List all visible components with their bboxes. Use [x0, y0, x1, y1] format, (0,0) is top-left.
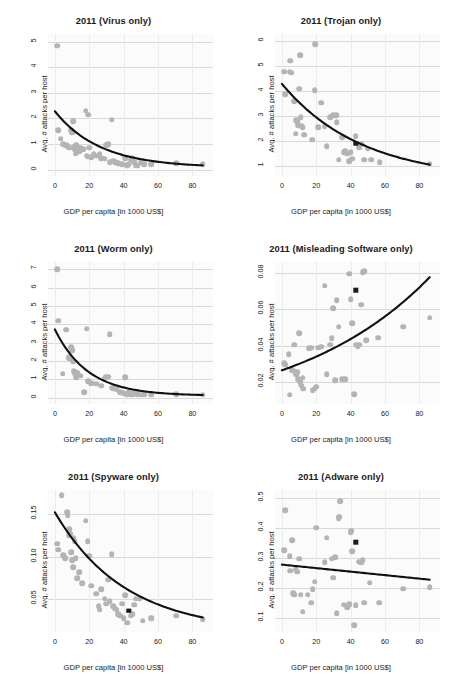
- fit-curve: [275, 34, 440, 176]
- y-tick-label: 0.3: [256, 545, 265, 567]
- panel-title: 2011 (Adware only): [227, 472, 455, 482]
- x-axis-label: GDP per capita [in 1000 US$]: [0, 435, 227, 444]
- highlight-marker: [353, 141, 358, 146]
- scatter-plot-grid: 2011 (Virus only)Avg. # attacks per host…: [0, 0, 455, 684]
- x-tick-label: 20: [85, 409, 93, 418]
- y-tick-label: 0: [29, 157, 38, 179]
- x-tick-label: 80: [188, 181, 196, 190]
- panel-title: 2011 (Trojan only): [227, 16, 455, 26]
- x-tick-label: 80: [188, 637, 196, 646]
- y-tick-label: 0.5: [256, 485, 265, 507]
- panel-title: 2011 (Virus only): [0, 16, 227, 26]
- x-axis-label: GDP per capita [in 1000 US$]: [227, 207, 455, 216]
- fit-curve: [48, 34, 213, 176]
- plot-area: 012345020406080: [48, 34, 213, 176]
- chart-panel-1: 2011 (Virus only)Avg. # attacks per host…: [0, 0, 227, 228]
- x-tick-label: 60: [381, 637, 389, 646]
- highlight-marker: [353, 288, 358, 293]
- y-tick-label: 0.10: [29, 544, 38, 566]
- x-axis-label: GDP per capita [in 1000 US$]: [227, 663, 455, 672]
- y-tick-label: 3: [256, 104, 265, 126]
- panel-title: 2011 (Worm only): [0, 244, 227, 254]
- x-tick-label: 0: [280, 409, 284, 418]
- fit-curve: [275, 262, 440, 404]
- y-tick-label: 0.1: [256, 606, 265, 628]
- y-tick-label: 0.05: [29, 587, 38, 609]
- y-tick-label: 2: [256, 129, 265, 151]
- plot-area: 0.050.100.15020406080: [48, 490, 213, 632]
- chart-panel-2: 2011 (Trojan only)Avg. # attacks per hos…: [227, 0, 455, 228]
- chart-panel-4: 2011 (Misleading Software only)Avg. # at…: [227, 228, 455, 456]
- y-tick-label: 5: [29, 29, 38, 51]
- x-tick-label: 60: [381, 409, 389, 418]
- x-tick-label: 0: [53, 637, 57, 646]
- y-tick-label: 0.4: [256, 515, 265, 537]
- x-tick-label: 60: [381, 181, 389, 190]
- y-tick-label: 6: [256, 29, 265, 51]
- fit-curve: [275, 490, 440, 632]
- x-tick-label: 60: [154, 637, 162, 646]
- plot-area: 0.020.040.060.08020406080: [275, 262, 440, 404]
- y-tick-label: 0.08: [256, 260, 265, 282]
- x-tick-label: 40: [347, 637, 355, 646]
- x-tick-label: 40: [120, 409, 128, 418]
- y-tick-label: 1: [29, 132, 38, 154]
- x-tick-label: 60: [154, 181, 162, 190]
- x-tick-label: 60: [154, 409, 162, 418]
- x-axis-label: GDP per capita [in 1000 US$]: [0, 207, 227, 216]
- chart-panel-5: 2011 (Spyware only)Avg. # attacks per ho…: [0, 456, 227, 684]
- y-tick-label: 7: [29, 257, 38, 279]
- x-tick-label: 40: [120, 637, 128, 646]
- x-tick-label: 20: [85, 637, 93, 646]
- x-tick-label: 20: [312, 181, 320, 190]
- x-tick-label: 0: [53, 181, 57, 190]
- plot-area: 0.10.20.30.40.5020406080: [275, 490, 440, 632]
- x-tick-label: 0: [53, 409, 57, 418]
- y-tick-label: 5: [256, 54, 265, 76]
- x-tick-label: 20: [85, 181, 93, 190]
- y-tick-label: 4: [29, 55, 38, 77]
- x-tick-label: 80: [188, 409, 196, 418]
- y-tick-label: 0.02: [256, 370, 265, 392]
- x-tick-label: 40: [347, 181, 355, 190]
- y-tick-label: 0.15: [29, 501, 38, 523]
- x-tick-label: 0: [280, 637, 284, 646]
- highlight-marker: [353, 540, 358, 545]
- y-tick-label: 3: [29, 80, 38, 102]
- x-tick-label: 20: [312, 637, 320, 646]
- highlight-marker: [126, 608, 131, 613]
- x-tick-label: 80: [415, 409, 423, 418]
- fit-curve: [48, 262, 213, 404]
- y-tick-label: 2: [29, 106, 38, 128]
- y-tick-label: 0.04: [256, 333, 265, 355]
- y-tick-label: 0.06: [256, 297, 265, 319]
- x-axis-label: GDP per capita [in 1000 US$]: [227, 435, 455, 444]
- y-tick-label: 1: [256, 154, 265, 176]
- y-tick-label: 4: [256, 79, 265, 101]
- x-tick-label: 0: [280, 181, 284, 190]
- panel-title: 2011 (Spyware only): [0, 472, 227, 482]
- plot-area: 123456020406080: [275, 34, 440, 176]
- x-tick-label: 40: [120, 181, 128, 190]
- x-axis-label: GDP per capita [in 1000 US$]: [0, 663, 227, 672]
- chart-panel-3: 2011 (Worm only)Avg. # attacks per hostG…: [0, 228, 227, 456]
- panel-title: 2011 (Misleading Software only): [227, 244, 455, 254]
- x-tick-label: 80: [415, 637, 423, 646]
- chart-panel-6: 2011 (Adware only)Avg. # attacks per hos…: [227, 456, 455, 684]
- x-tick-label: 40: [347, 409, 355, 418]
- y-tick-label: 0.2: [256, 576, 265, 598]
- x-tick-label: 80: [415, 181, 423, 190]
- plot-area: 01234567020406080: [48, 262, 213, 404]
- x-tick-label: 20: [312, 409, 320, 418]
